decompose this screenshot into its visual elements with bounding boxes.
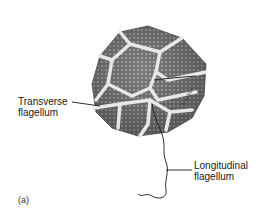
longitudinal-label-line1: Longitudinal <box>194 160 248 171</box>
transverse-label-line1: Transverse <box>18 96 68 107</box>
longitudinal-label-line2: flagellum <box>194 171 248 182</box>
transverse-flagellum-label: Transverse flagellum <box>18 96 68 118</box>
dinoflagellate-figure: Transverse flagellum Longitudinal flagel… <box>0 0 268 214</box>
panel-label: (a) <box>18 195 29 206</box>
transverse-label-line2: flagellum <box>18 107 68 118</box>
longitudinal-flagellum-label: Longitudinal flagellum <box>194 160 248 182</box>
